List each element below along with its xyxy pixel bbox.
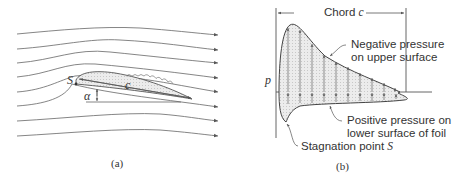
caption-b: (b) bbox=[336, 160, 349, 173]
stagnation-text: Stagnation point bbox=[301, 140, 384, 152]
diagram-canvas bbox=[0, 0, 452, 182]
chord-symbol: c bbox=[359, 6, 364, 18]
stagnation-symbol: S bbox=[387, 140, 393, 152]
airfoil bbox=[75, 72, 192, 102]
caption-a: (a) bbox=[111, 157, 123, 170]
lower-surface-label-1: Positive pressure on bbox=[347, 114, 451, 127]
upper-surface-label-2: on upper surface bbox=[351, 51, 437, 64]
chord-label-a: c bbox=[125, 79, 130, 92]
lower-surface-label-2: lower surface of foil bbox=[347, 127, 446, 140]
stagnation-label-a: S bbox=[67, 74, 73, 87]
pressure-axis-label: p bbox=[265, 74, 271, 87]
angle-label: α bbox=[84, 90, 90, 103]
chord-text: Chord bbox=[324, 6, 355, 18]
upper-surface-label-1: Negative pressure bbox=[351, 38, 444, 51]
stagnation-point-label: Stagnation point S bbox=[301, 140, 393, 153]
chord-label-b: Chord c bbox=[322, 6, 366, 19]
